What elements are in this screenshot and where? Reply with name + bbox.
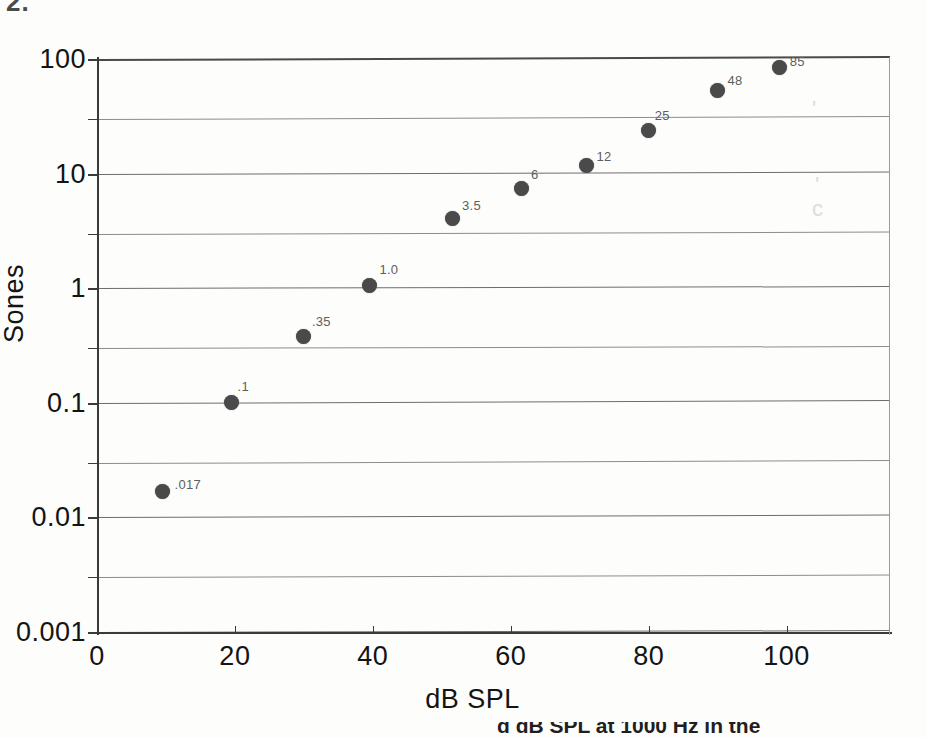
x-axis-title-text: dB SPL xyxy=(425,684,520,714)
x-tick-80 xyxy=(649,626,650,634)
data-point-label: 6 xyxy=(531,167,539,182)
sones-vs-db-spl-chart: 1001010.10.010.001 020406080100 .017.1.3… xyxy=(0,0,927,738)
x-tick-label-100: 100 xyxy=(763,641,810,672)
data-point-label: 1.0 xyxy=(379,262,398,277)
y-tick-0.01 xyxy=(88,517,99,519)
y-tick-label-0.001: 0.001 xyxy=(4,617,86,648)
x-tick-100 xyxy=(787,626,788,634)
data-point-label: .35 xyxy=(312,314,331,329)
page-caption-text: d dB SPL at 1000 Hz in the xyxy=(497,722,760,738)
y-tick-label-10: 10 xyxy=(4,158,86,189)
data-point-label: 48 xyxy=(728,73,743,88)
y-tick-1 xyxy=(88,288,99,290)
data-point-label: .017 xyxy=(175,477,202,492)
data-point xyxy=(445,211,460,226)
y-tick-0.3 xyxy=(88,348,99,349)
gridline-100 xyxy=(97,56,890,61)
x-tick-60 xyxy=(511,626,512,634)
y-tick-label-0.01: 0.01 xyxy=(4,502,86,533)
data-point xyxy=(224,395,239,410)
y-tick-100 xyxy=(88,59,99,61)
y-tick-0.003 xyxy=(88,577,99,578)
y-tick-label-100: 100 xyxy=(4,44,86,75)
x-tick-0 xyxy=(97,626,98,634)
gridline-10 xyxy=(97,171,890,174)
ghost-artifact: ' xyxy=(815,172,819,198)
x-tick-label-60: 60 xyxy=(495,641,526,672)
x-axis-line xyxy=(97,632,892,634)
y-tick-10 xyxy=(88,174,99,176)
gridline-30 xyxy=(97,116,890,120)
gridline-1 xyxy=(97,286,890,289)
x-tick-label-0: 0 xyxy=(89,641,105,672)
y-tick-0.1 xyxy=(88,403,99,405)
gridline-3 xyxy=(97,231,890,234)
data-point xyxy=(772,60,787,75)
x-tick-label-20: 20 xyxy=(219,641,250,672)
page-caption-cut-off: d dB SPL at 1000 Hz in the xyxy=(0,722,927,738)
y-tick-3 xyxy=(88,234,99,235)
x-tick-label-80: 80 xyxy=(633,641,664,672)
y-tick-label-0.1: 0.1 xyxy=(4,387,86,418)
data-point-label: 3.5 xyxy=(462,198,481,213)
data-point xyxy=(514,181,529,196)
ghost-artifact: c xyxy=(812,196,823,222)
x-tick-40 xyxy=(373,626,374,634)
x-tick-20 xyxy=(235,626,236,634)
data-point xyxy=(296,329,311,344)
ghost-artifact: ' xyxy=(812,96,816,122)
data-point-label: 12 xyxy=(597,149,612,164)
data-point xyxy=(710,83,725,98)
y-tick-0.03 xyxy=(88,463,99,464)
data-point xyxy=(155,484,170,499)
x-tick-label-40: 40 xyxy=(357,641,388,672)
y-axis-line xyxy=(97,57,99,635)
data-point-label: 25 xyxy=(655,108,670,123)
y-axis-title: Sones xyxy=(0,224,30,384)
gridline-0.1 xyxy=(97,400,890,404)
data-point xyxy=(641,123,656,138)
data-point xyxy=(362,278,377,293)
data-point xyxy=(579,158,594,173)
y-tick-30 xyxy=(88,119,99,120)
plot-right-border xyxy=(889,57,890,635)
data-point-label: 85 xyxy=(790,54,805,69)
gridline-0.01 xyxy=(97,515,890,518)
gridline-0.003 xyxy=(97,575,890,578)
gridline-0.03 xyxy=(97,460,890,464)
x-axis-title: dB SPL xyxy=(0,684,927,715)
data-point-label: .1 xyxy=(238,379,249,394)
gridline-0.3 xyxy=(97,346,890,349)
